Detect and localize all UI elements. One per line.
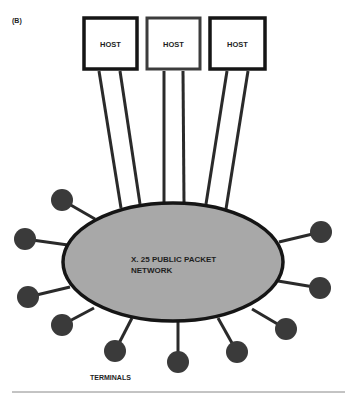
terminal-node (14, 228, 36, 250)
terminal-node (17, 286, 39, 308)
host-box-1: HOST (84, 18, 137, 69)
terminal-node (309, 277, 331, 299)
terminal-node (310, 221, 332, 243)
terminal-node (104, 340, 126, 362)
network-label-line2: NETWORK (131, 266, 173, 275)
terminals-label: TERMINALS (90, 374, 131, 381)
figure-label: (B) (12, 17, 22, 25)
terminal-node (51, 314, 73, 336)
host-label: HOST (227, 40, 248, 49)
terminal-node (275, 318, 297, 340)
terminal-node (51, 189, 73, 211)
network-label-line1: X. 25 PUBLIC PACKET (131, 255, 216, 264)
terminal-node (167, 351, 189, 373)
host-box-3: HOST (210, 18, 265, 69)
terminal-node (226, 341, 248, 363)
host-connection-lines (99, 71, 248, 209)
host-box-2: HOST (147, 18, 200, 69)
network-diagram: (B) X. 25 PUBLIC PACKET NETWORK (0, 0, 345, 394)
host-label: HOST (163, 40, 184, 49)
host-label: HOST (100, 40, 121, 49)
